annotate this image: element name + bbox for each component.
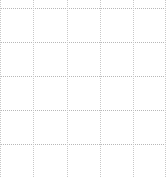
grid-line-vertical [67, 0, 68, 177]
grid-line-vertical [133, 0, 134, 177]
grid-line-vertical [100, 0, 101, 177]
grid-line-vertical [0, 0, 1, 177]
grid-line-horizontal [0, 42, 166, 43]
grid-line-vertical [165, 0, 166, 177]
dotted-grid-canvas [0, 0, 166, 177]
grid-line-horizontal [0, 76, 166, 77]
grid-line-vertical [33, 0, 34, 177]
grid-line-horizontal [0, 110, 166, 111]
grid-line-horizontal [0, 144, 166, 145]
grid-line-horizontal [0, 8, 166, 9]
